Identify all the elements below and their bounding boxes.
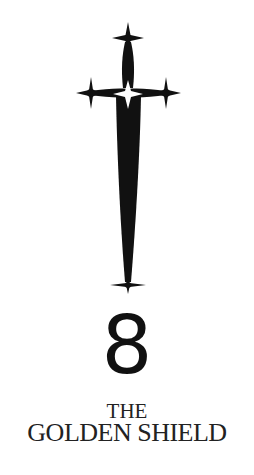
tip-star-icon <box>110 276 146 294</box>
title-line-2: GOLDEN SHIELD <box>0 419 254 447</box>
left-guard-star-icon <box>76 77 106 109</box>
right-guard-star-icon <box>151 77 181 109</box>
volume-number: 8 <box>0 306 254 386</box>
sword-blade <box>116 96 141 282</box>
sword-icon <box>0 0 254 300</box>
